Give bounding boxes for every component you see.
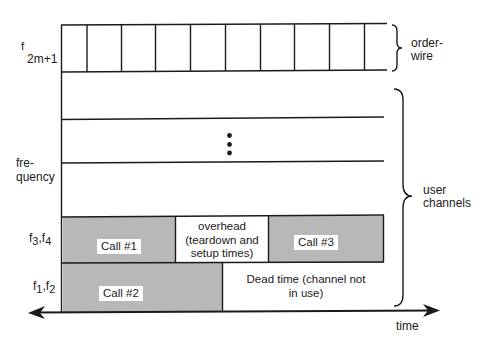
orderwire-bottom-edge — [61, 70, 387, 72]
f2-sub: 2 — [49, 283, 55, 295]
orderwire-brace — [392, 25, 402, 71]
f4-sub: 4 — [45, 235, 51, 247]
user-channels-brace — [394, 89, 412, 306]
dead-time-line-1: Dead time (channel not — [228, 272, 384, 286]
orderwire-frequency-subscript: 2m+1 — [27, 53, 57, 66]
y-label-line-1: fre- — [16, 156, 55, 170]
call-1-label: Call #1 — [97, 239, 141, 254]
frequency-axis-label: fre- quency — [16, 156, 55, 184]
freq-subscript: 2m+1 — [27, 52, 57, 66]
channel-line-1 — [61, 117, 384, 120]
user-channels-brace-label: user channels — [423, 184, 471, 210]
freq-f: f — [21, 40, 24, 52]
overhead-line-2: (teardown and — [176, 234, 268, 248]
y-label-line-2: quency — [16, 170, 55, 184]
call-3-label: Call #3 — [294, 235, 338, 250]
orderwire-brace-label: order- wire — [411, 37, 443, 63]
orderwire-frequency-label: f — [21, 40, 24, 53]
overhead-label: overhead (teardown and setup times) — [176, 220, 268, 261]
call-2-label: Call #2 — [99, 286, 143, 301]
vertical-dots-icon — [227, 133, 232, 155]
dead-time-label: Dead time (channel not in use) — [228, 272, 384, 300]
orderwire-top-edge — [61, 24, 387, 26]
channel-line-2 — [61, 161, 384, 163]
dead-time-line-2: in use) — [228, 286, 384, 300]
orderwire-line-2: wire — [411, 50, 443, 63]
user-channels-line-2: channels — [423, 197, 471, 210]
overhead-line-1: overhead — [176, 220, 268, 234]
time-axis-label: time — [396, 320, 419, 333]
row-f1f2-label: f1,f2 — [33, 280, 55, 296]
row-f3f4-label: f3,f4 — [29, 232, 51, 248]
overhead-line-3: setup times) — [176, 247, 268, 261]
orderwire-slot-dividers — [87, 24, 365, 72]
